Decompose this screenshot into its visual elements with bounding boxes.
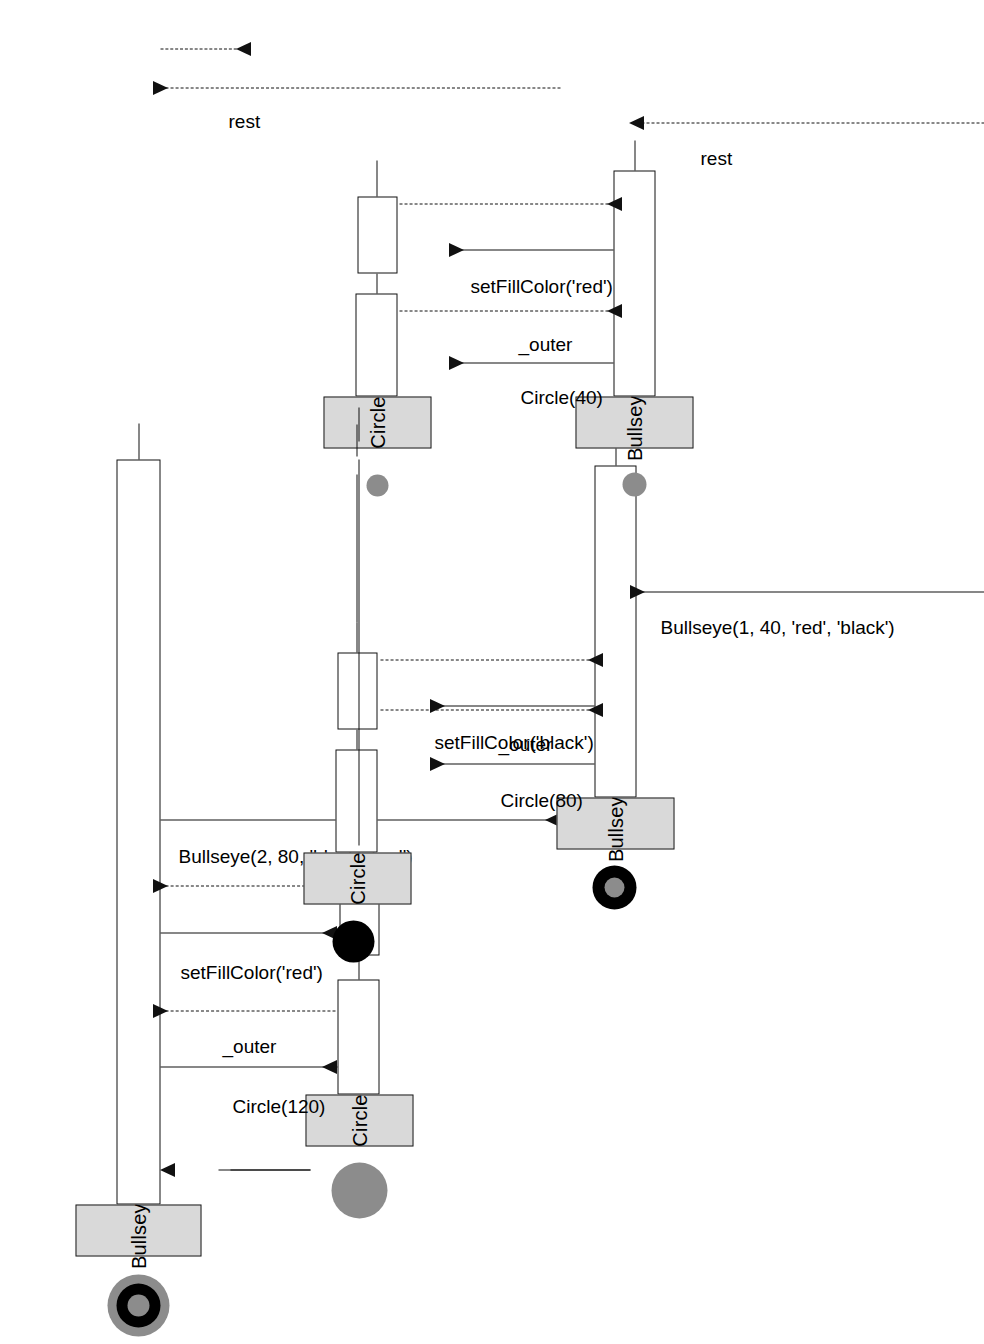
message-line-circle40 xyxy=(455,362,613,363)
bullseye-3ring-core xyxy=(127,1294,149,1316)
lifeline-head-circle2: Circle xyxy=(303,852,411,904)
lifeline-label-circle2: Circle xyxy=(346,852,369,904)
message-arrowhead-outer1 xyxy=(153,1004,168,1018)
message-arrowhead-circle120 xyxy=(322,1060,337,1074)
message-arrowhead-return-setfill3 xyxy=(607,197,622,211)
bullseye-2ring-icon xyxy=(592,865,636,909)
message-arrowhead-rest0 xyxy=(236,42,251,56)
bullseye-3ring-icon xyxy=(107,1274,169,1336)
circle-black-icon xyxy=(332,920,374,962)
message-label-setfill-red2: setFillColor('red') xyxy=(470,276,612,295)
activation-circle3-a xyxy=(355,293,397,396)
message-line-setfill-red1 xyxy=(160,932,337,933)
message-line-rest2 xyxy=(636,122,984,123)
activation-bullseye2 xyxy=(594,465,636,797)
lifeline-head-bullseye1: Bullseye xyxy=(75,1204,201,1256)
message-label-circle40: Circle(40) xyxy=(520,387,602,406)
lifeline-stub-circle2 xyxy=(356,622,357,652)
message-label-circle120: Circle(120) xyxy=(232,1096,325,1115)
message-label-outer1: _outer xyxy=(222,1036,276,1055)
message-line-bullseye1call xyxy=(636,591,984,592)
message-stem-circle120 xyxy=(160,1066,337,1067)
message-arrowhead-circle40 xyxy=(449,356,464,370)
lifeline-continuation-circle2-tail xyxy=(356,424,357,456)
lifeline-label-circle3: Circle xyxy=(366,396,389,448)
lifeline-head-circle3: Circle xyxy=(323,396,431,448)
circle-gray-small-icon-bullseye3 xyxy=(622,472,646,496)
message-label-setfill-black: setFillColor('black') xyxy=(434,732,593,751)
message-arrowhead-rest1 xyxy=(153,81,168,95)
message-label-bullseye1call: Bullseye(1, 40, 'red', 'black') xyxy=(660,617,894,636)
message-arrowhead-bullseye1call xyxy=(630,585,645,599)
message-line-outer3 xyxy=(399,310,613,311)
message-arrowhead-return-setfill2 xyxy=(588,653,603,667)
message-line-rest0 xyxy=(160,48,246,49)
lifeline-stub-bullseye1 xyxy=(138,423,139,459)
lifeline-label-circle1: Circle xyxy=(348,1094,371,1146)
message-line-outer1 xyxy=(160,1010,335,1011)
lifeline-continuation-circle1 xyxy=(358,459,359,845)
message-label-rest1: rest xyxy=(228,111,260,130)
message-arrowhead-circle80 xyxy=(430,757,445,771)
message-arrowhead-rest2 xyxy=(629,116,644,130)
lifeline-stub-circle3 xyxy=(376,160,377,196)
message-arrowhead-return-setfill1 xyxy=(153,879,168,893)
message-line-setfill-red2 xyxy=(455,249,613,250)
message-arrowhead-setfill-red2 xyxy=(449,243,464,257)
message-start-stem xyxy=(230,1169,310,1170)
activation-circle2-b xyxy=(337,652,377,729)
message-arrowhead-setfill-black xyxy=(430,699,445,713)
message-line-setfill-black xyxy=(436,705,594,706)
activation-bullseye1 xyxy=(116,459,160,1204)
connector-circle2 xyxy=(356,729,357,749)
message-arrowhead-outer3 xyxy=(607,304,622,318)
lifeline-continuation-circle2 xyxy=(356,474,357,622)
message-line-rest1 xyxy=(160,87,560,88)
message-label-circle80: Circle(80) xyxy=(500,790,582,809)
activation-circle1-a xyxy=(337,979,379,1094)
message-label-outer3: _outer xyxy=(518,334,572,353)
message-line-return-setfill3 xyxy=(399,203,613,204)
message-line-circle80 xyxy=(436,763,594,764)
connector-circle3 xyxy=(376,273,377,293)
activation-circle2-a xyxy=(335,749,377,852)
message-label-setfill-red1: setFillColor('red') xyxy=(180,962,322,981)
circle-gray-small-icon-circle3 xyxy=(366,474,388,496)
message-label-rest2: rest xyxy=(700,148,732,167)
message-line-outer2 xyxy=(380,709,594,710)
message-arrowhead-start xyxy=(160,1163,175,1177)
circle-gray-icon-1 xyxy=(331,1162,387,1218)
message-line-return-setfill2 xyxy=(380,659,594,660)
activation-circle3-b xyxy=(357,196,397,273)
lifeline-continuation-circle1-tail xyxy=(358,407,359,441)
bullseye-2ring-core xyxy=(604,877,624,897)
lifeline-stub-bullseye3 xyxy=(634,140,635,170)
